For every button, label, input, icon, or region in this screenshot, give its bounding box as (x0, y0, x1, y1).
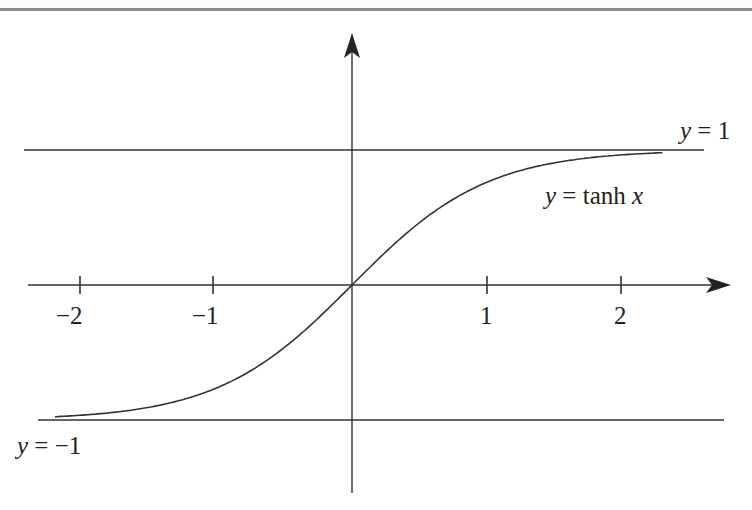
y-axis (344, 33, 360, 493)
lower-asymptote-label: y = −1 (17, 433, 81, 458)
x-tick-label: −2 (56, 303, 83, 328)
x-tick-label: 1 (480, 303, 493, 328)
x-tick-label: −1 (192, 303, 219, 328)
upper-asymptote-label: y = 1 (680, 118, 730, 143)
curve-label: y = tanh x (545, 183, 643, 208)
x-axis (28, 276, 731, 294)
plot-area (0, 0, 752, 510)
x-tick-label: 2 (614, 303, 627, 328)
